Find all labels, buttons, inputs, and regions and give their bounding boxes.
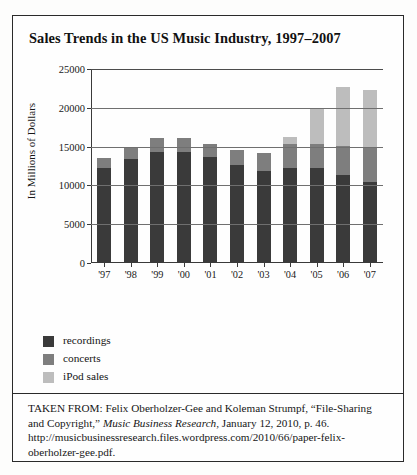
bar-segment-recordings (363, 182, 377, 263)
bar-segment-concerts (124, 147, 138, 159)
bar-segment-recordings (203, 157, 217, 263)
legend-label: recordings (63, 335, 111, 346)
bar-segment-recordings (230, 165, 244, 263)
x-tick-label: '02 (231, 269, 243, 280)
bar-segment-recordings (336, 175, 350, 263)
x-tick-label: '03 (257, 269, 269, 280)
x-tick-mark (264, 263, 265, 267)
bar-segment-concerts (336, 146, 350, 175)
figure-caption: TAKEN FROM: Felix Oberholzer-Gee and Kol… (28, 401, 388, 459)
x-tick-mark (237, 263, 238, 267)
y-tick-label: 0 (29, 258, 85, 269)
x-tick-mark (131, 263, 132, 267)
bar-group[interactable] (363, 90, 377, 263)
bar-segment-concerts (230, 150, 244, 166)
legend-swatch-recordings (43, 336, 54, 347)
bar-segment-ipod-sales (363, 90, 377, 147)
x-tick-mark (317, 263, 318, 267)
x-tick-label: '07 (364, 269, 376, 280)
x-tick-mark (370, 263, 371, 267)
y-tick-mark (87, 224, 91, 225)
bar-group[interactable] (230, 150, 244, 263)
bar-segment-concerts (177, 138, 191, 152)
x-tick-mark (210, 263, 211, 267)
caption-source-title: Music Business Research (103, 417, 216, 429)
y-tick-mark (87, 69, 91, 70)
bar-chart: In Millions of Dollars 05000100001500020… (29, 60, 389, 313)
x-tick-label: '04 (284, 269, 296, 280)
page-title: Sales Trends in the US Music Industry, 1… (29, 30, 389, 47)
gridline (91, 69, 383, 70)
y-tick-mark (87, 108, 91, 109)
bar-segment-concerts (310, 144, 324, 168)
x-tick-mark (343, 263, 344, 267)
bar-segment-ipod-sales (283, 137, 297, 145)
x-tick-mark (184, 263, 185, 267)
gridline (91, 224, 383, 225)
bar-group[interactable] (283, 137, 297, 263)
bar-segment-recordings (283, 168, 297, 263)
bar-segment-recordings (310, 168, 324, 263)
y-tick-label: 25000 (29, 64, 85, 75)
bar-segment-concerts (97, 158, 111, 168)
y-tick-label: 20000 (29, 102, 85, 113)
figure-frame: Sales Trends in the US Music Industry, 1… (12, 15, 404, 462)
y-tick-mark (87, 147, 91, 148)
bar-segment-concerts (283, 144, 297, 168)
bar-segment-concerts (203, 144, 217, 158)
x-tick-mark (157, 263, 158, 267)
legend-item: recordings (43, 332, 243, 350)
bar-segment-concerts (257, 153, 271, 172)
legend-swatch-ipod-sales (43, 372, 54, 383)
gridline (91, 147, 383, 148)
y-tick-label: 5000 (29, 219, 85, 230)
x-tick-label: '99 (151, 269, 163, 280)
bar-group[interactable] (97, 158, 111, 263)
x-tick-label: '98 (125, 269, 137, 280)
y-tick-label: 10000 (29, 180, 85, 191)
bar-segment-ipod-sales (336, 87, 350, 146)
bar-group[interactable] (150, 138, 164, 263)
bar-group[interactable] (336, 87, 350, 263)
bars-layer (91, 69, 383, 263)
x-tick-mark (104, 263, 105, 267)
bar-group[interactable] (203, 144, 217, 263)
bar-segment-recordings (124, 159, 138, 263)
bar-group[interactable] (257, 153, 271, 263)
bar-segment-concerts (150, 138, 164, 152)
x-tick-mark (290, 263, 291, 267)
legend-swatch-concerts (43, 354, 54, 365)
legend-label: iPod sales (63, 371, 109, 382)
figure-page: Sales Trends in the US Music Industry, 1… (0, 0, 417, 475)
gridline (91, 108, 383, 109)
x-tick-label: '05 (311, 269, 323, 280)
bar-group[interactable] (177, 138, 191, 263)
y-tick-mark (87, 185, 91, 186)
caption-divider (13, 393, 403, 394)
bar-segment-recordings (150, 152, 164, 263)
x-tick-label: '00 (178, 269, 190, 280)
bar-segment-recordings (177, 152, 191, 263)
legend-label: concerts (63, 353, 101, 364)
legend-item: concerts (43, 350, 243, 368)
bar-segment-concerts (363, 147, 377, 183)
x-tick-label: '06 (337, 269, 349, 280)
x-tick-label: '97 (98, 269, 110, 280)
chart-legend: recordingsconcertsiPod sales (43, 332, 243, 386)
plot-area (91, 69, 383, 263)
y-tick-label: 15000 (29, 141, 85, 152)
x-tick-label: '01 (204, 269, 216, 280)
bar-segment-recordings (97, 168, 111, 263)
gridline (91, 185, 383, 186)
legend-item: iPod sales (43, 368, 243, 386)
y-tick-mark (87, 263, 91, 264)
bar-group[interactable] (124, 147, 138, 263)
bar-segment-ipod-sales (310, 109, 324, 144)
